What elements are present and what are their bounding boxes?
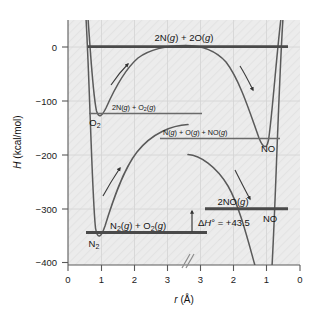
x-tick-label-0-left: 0 — [65, 274, 70, 285]
x-tick-label-2-right: 2 — [231, 274, 236, 285]
x-tick-label-1-right: 1 — [264, 274, 269, 285]
x-tick-label-1-left: 1 — [99, 274, 104, 285]
x-axis-title: r (Å) — [174, 293, 193, 305]
label-2N-2O: 2N(g) + 2O(g) — [155, 32, 214, 43]
label-species-NO-upper: NO — [261, 143, 275, 154]
x-axis-title-units: (Å) — [178, 293, 194, 305]
label-2NO: 2NO(g) — [217, 196, 248, 207]
x-tick-label-0-right: 0 — [297, 274, 302, 285]
y-tick-label-minus200: −200 — [36, 150, 57, 161]
potential-energy-diagram: 0 −100 −200 −300 −400 0 1 2 3 3 2 1 0 r … — [0, 0, 316, 320]
y-tick-label-0: 0 — [52, 42, 57, 53]
x-tick-label-2-left: 2 — [132, 274, 137, 285]
label-delta-h: ΔH° = +43.5 — [198, 217, 250, 228]
label-N-O-NO: N(g) + O(g) + NO(g) — [163, 128, 227, 137]
y-axis-title: H (kcal/mol) — [12, 115, 23, 168]
label-2N-O2: 2N(g) + O2(g) — [112, 103, 156, 112]
y-axis-title-units: (kcal/mol) — [12, 115, 23, 161]
label-species-NO-lower: NO — [263, 213, 277, 224]
x-tick-label-3-left: 3 — [165, 274, 170, 285]
y-tick-label-minus400: −400 — [36, 257, 57, 268]
chart-svg: 0 −100 −200 −300 −400 0 1 2 3 3 2 1 0 r … — [0, 0, 316, 320]
x-tick-label-3-right: 3 — [198, 274, 203, 285]
y-tick-label-minus300: −300 — [36, 204, 57, 215]
y-tick-label-minus100: −100 — [36, 96, 57, 107]
